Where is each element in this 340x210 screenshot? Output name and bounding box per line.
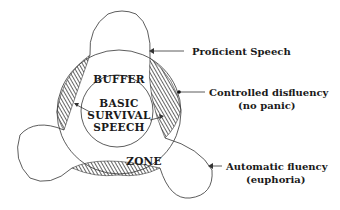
- shaded-region-left: [57, 55, 90, 130]
- controlled-disfluency-label: Controlled disfluency: [209, 87, 330, 98]
- callout-automatic: Automatic fluency (euphoria): [208, 161, 329, 185]
- lobe-top: [90, 11, 150, 58]
- center-label-line-3: SPEECH: [93, 121, 145, 133]
- buffer-label: BUFFER: [93, 73, 144, 85]
- proficient-speech-label: Proficient Speech: [192, 46, 291, 57]
- controlled-disfluency-sub: (no panic): [238, 100, 296, 111]
- automatic-fluency-label: Automatic fluency: [225, 161, 329, 172]
- dot-icon: [177, 90, 181, 94]
- callout-controlled: Controlled disfluency (no panic): [177, 87, 329, 111]
- lobe-left: [18, 125, 72, 181]
- zone-label: ZONE: [126, 155, 162, 167]
- automatic-fluency-sub: (euphoria): [246, 174, 306, 185]
- speech-zones-diagram: BUFFER BASIC SURVIVAL SPEECH ZONE Profic…: [0, 0, 340, 210]
- shaded-region-right: [149, 58, 181, 138]
- arrowhead-icon: [149, 48, 154, 54]
- center-label-line-2: SURVIVAL: [87, 109, 151, 121]
- callout-proficient: Proficient Speech: [149, 46, 291, 57]
- arrowhead-icon: [74, 103, 79, 107]
- center-label-line-1: BASIC: [99, 97, 138, 109]
- lobe-right: [160, 138, 212, 198]
